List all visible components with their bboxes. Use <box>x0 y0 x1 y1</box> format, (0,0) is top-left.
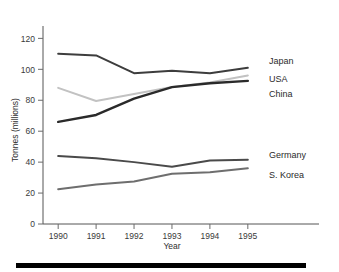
x-tick-label: 1992 <box>125 231 144 241</box>
x-axis-title: Year <box>163 241 180 251</box>
x-tick-label: 1995 <box>238 231 257 241</box>
series-line-usa <box>58 76 248 102</box>
y-axis-title: Tonnes (millions) <box>10 98 20 162</box>
x-tick-marks <box>58 224 248 229</box>
series-label-germany: Germany <box>269 150 307 160</box>
y-tick-label: 40 <box>26 157 36 167</box>
footer-rule <box>16 263 306 268</box>
series-end-labels: JapanUSAChinaGermanyS. Korea <box>269 56 307 181</box>
y-tick-label: 60 <box>26 126 36 136</box>
data-series-lines <box>58 54 248 189</box>
y-tick-label: 120 <box>21 34 35 44</box>
y-tick-label: 0 <box>30 219 35 229</box>
series-line-germany <box>58 156 248 167</box>
y-tick-labels: 020406080100120 <box>21 34 35 230</box>
line-chart-figure: 020406080100120 199019911992199319941995… <box>0 0 339 272</box>
y-tick-marks <box>38 38 43 224</box>
x-tick-label: 1991 <box>87 231 106 241</box>
x-tick-label: 1993 <box>163 231 182 241</box>
y-tick-label: 100 <box>21 65 35 75</box>
series-label-s-korea: S. Korea <box>269 170 304 180</box>
series-label-usa: USA <box>269 74 288 84</box>
chart-plot-area: 020406080100120 199019911992199319941995… <box>0 0 339 272</box>
series-label-japan: Japan <box>269 56 294 66</box>
series-line-china <box>58 81 248 122</box>
y-tick-label: 80 <box>26 95 36 105</box>
x-tick-label: 1990 <box>49 231 68 241</box>
y-tick-label: 20 <box>26 188 36 198</box>
series-label-china: China <box>269 89 293 99</box>
series-line-s-korea <box>58 168 248 189</box>
x-tick-label: 1994 <box>200 231 219 241</box>
x-tick-labels: 199019911992199319941995 <box>49 231 258 241</box>
series-line-japan <box>58 54 248 73</box>
